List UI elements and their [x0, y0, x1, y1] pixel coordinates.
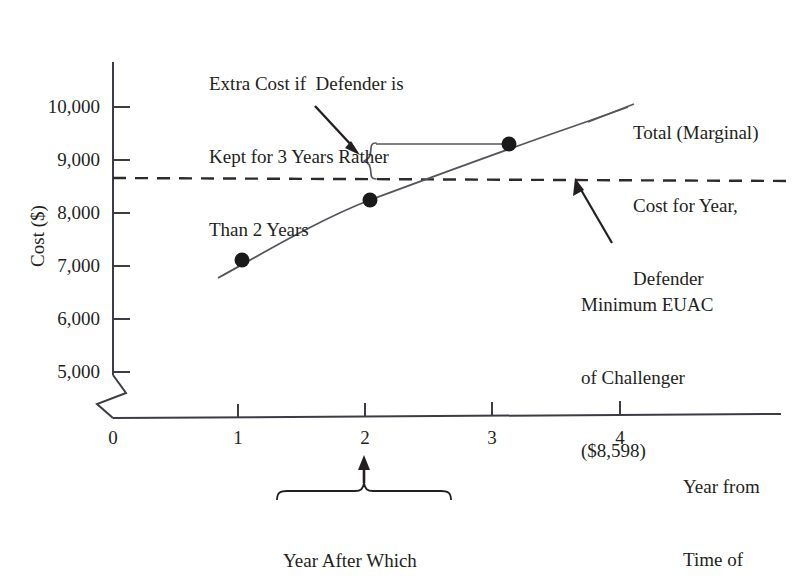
y-axis-ticks	[113, 107, 130, 372]
min-euac-line-2: of Challenger	[581, 366, 713, 390]
min-euac-arrow	[573, 178, 612, 243]
y-tick-label-10000: 10,000	[20, 95, 100, 119]
min-euac-line-1: Minimum EUAC	[581, 293, 713, 317]
replacement-year-bracket-arrow	[277, 455, 451, 500]
defender-label-leader	[588, 104, 634, 122]
min-euac-line-3: ($8,598)	[581, 439, 713, 463]
data-point-year-3	[502, 137, 517, 152]
replacement-year-annotation: Year After Which Replacement Should Be M…	[283, 500, 417, 588]
y-tick-label-7000: 7,000	[20, 254, 100, 278]
defender-label-line-1: Total (Marginal)	[633, 121, 758, 145]
extra-cost-line-2: Kept for 3 Years Rather	[209, 145, 404, 169]
x-tick-label-1: 1	[220, 426, 256, 450]
extra-cost-line-3: Than 2 Years	[209, 218, 404, 242]
defender-label-line-2: Cost for Year,	[633, 194, 758, 218]
y-tick-label-6000: 6,000	[20, 307, 100, 331]
x-tick-label-0: 0	[95, 426, 131, 450]
axis-break-zigzag	[97, 375, 126, 418]
chart-canvas: Cost ($) 10,000 9,000 8,000 7,000 6,000 …	[0, 0, 801, 588]
y-tick-label-9000: 9,000	[20, 148, 100, 172]
min-euac-annotation: Minimum EUAC of Challenger ($8,598)	[581, 244, 713, 511]
x-tick-label-3: 3	[474, 426, 510, 450]
extra-cost-annotation: Extra Cost if Defender is Kept for 3 Yea…	[209, 23, 404, 290]
replacement-line-1: Year After Which	[283, 549, 417, 573]
extra-cost-line-1: Extra Cost if Defender is	[209, 72, 404, 96]
x-axis-title-line-2: Time of	[683, 548, 760, 572]
y-tick-label-8000: 8,000	[20, 201, 100, 225]
x-tick-label-2: 2	[347, 426, 383, 450]
y-tick-label-5000: 5,000	[20, 360, 100, 384]
